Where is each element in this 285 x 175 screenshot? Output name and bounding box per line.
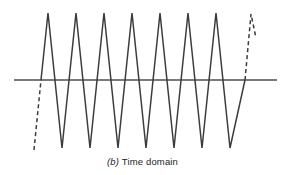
waveform-plot xyxy=(0,0,285,175)
signal-dashed-lead-in xyxy=(34,80,41,150)
caption-index: (b) xyxy=(107,156,119,167)
caption-text: Time domain xyxy=(122,156,178,167)
time-domain-figure: (b) Time domain xyxy=(0,0,285,175)
figure-caption: (b) Time domain xyxy=(0,156,285,167)
signal-dashed-tail xyxy=(245,14,256,80)
